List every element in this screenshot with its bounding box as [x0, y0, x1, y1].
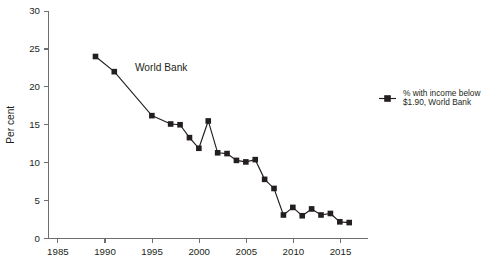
- legend-label-line1: % with income below: [403, 88, 481, 98]
- data-point[interactable]: [252, 157, 258, 163]
- y-tick-label-30: 30: [29, 5, 40, 16]
- data-point[interactable]: [243, 159, 249, 165]
- data-point[interactable]: [290, 205, 296, 211]
- x-tick-label-2010: 2010: [283, 246, 305, 257]
- series-annotation-0: World Bank: [135, 62, 188, 73]
- chart-figure: 0 5 10 15 20 25 30 Per cent 1985 1990 19…: [0, 0, 499, 274]
- x-axis: 1985 1990 1995 2000 2005 2010 2015: [47, 239, 368, 258]
- x-tick-label-1985: 1985: [47, 246, 69, 257]
- data-point[interactable]: [215, 150, 221, 156]
- legend-marker-square: [384, 95, 391, 102]
- data-series-layer: [93, 54, 352, 226]
- data-point[interactable]: [262, 177, 268, 183]
- y-tick-label-0: 0: [35, 233, 41, 244]
- annotation-layer: World Bank: [135, 62, 188, 73]
- x-axis-ticks: [58, 239, 341, 244]
- data-point[interactable]: [196, 145, 202, 151]
- data-point[interactable]: [337, 219, 343, 225]
- data-point[interactable]: [328, 211, 334, 217]
- data-point[interactable]: [299, 213, 305, 219]
- series-line-0: [95, 57, 349, 223]
- data-point[interactable]: [309, 206, 315, 212]
- data-point[interactable]: [234, 158, 240, 164]
- y-tick-label-20: 20: [29, 81, 40, 92]
- data-point[interactable]: [111, 69, 117, 75]
- data-point[interactable]: [224, 151, 230, 157]
- y-tick-label-5: 5: [35, 195, 40, 206]
- x-tick-label-1995: 1995: [141, 246, 163, 257]
- legend: % with income below $1.90, World Bank: [379, 88, 481, 108]
- x-tick-label-2005: 2005: [236, 246, 258, 257]
- x-tick-label-1990: 1990: [94, 246, 116, 257]
- data-point[interactable]: [346, 220, 352, 226]
- data-point[interactable]: [271, 186, 277, 192]
- data-point[interactable]: [168, 121, 174, 127]
- x-tick-label-2000: 2000: [188, 246, 210, 257]
- line-chart: 0 5 10 15 20 25 30 Per cent 1985 1990 19…: [0, 0, 499, 274]
- legend-label-line2: $1.90, World Bank: [403, 97, 472, 107]
- y-tick-label-15: 15: [29, 119, 40, 130]
- data-point[interactable]: [187, 135, 193, 141]
- x-tick-label-2015: 2015: [330, 246, 352, 257]
- y-axis: 0 5 10 15 20 25 30 Per cent: [5, 5, 49, 243]
- data-point[interactable]: [318, 212, 324, 218]
- y-tick-label-25: 25: [29, 43, 40, 54]
- data-point[interactable]: [149, 113, 155, 119]
- y-axis-title: Per cent: [5, 106, 16, 144]
- data-point[interactable]: [281, 212, 287, 218]
- y-tick-label-10: 10: [29, 157, 40, 168]
- data-point[interactable]: [205, 118, 211, 124]
- y-axis-ticks: [44, 11, 49, 238]
- data-point[interactable]: [93, 54, 99, 60]
- data-point[interactable]: [177, 122, 183, 128]
